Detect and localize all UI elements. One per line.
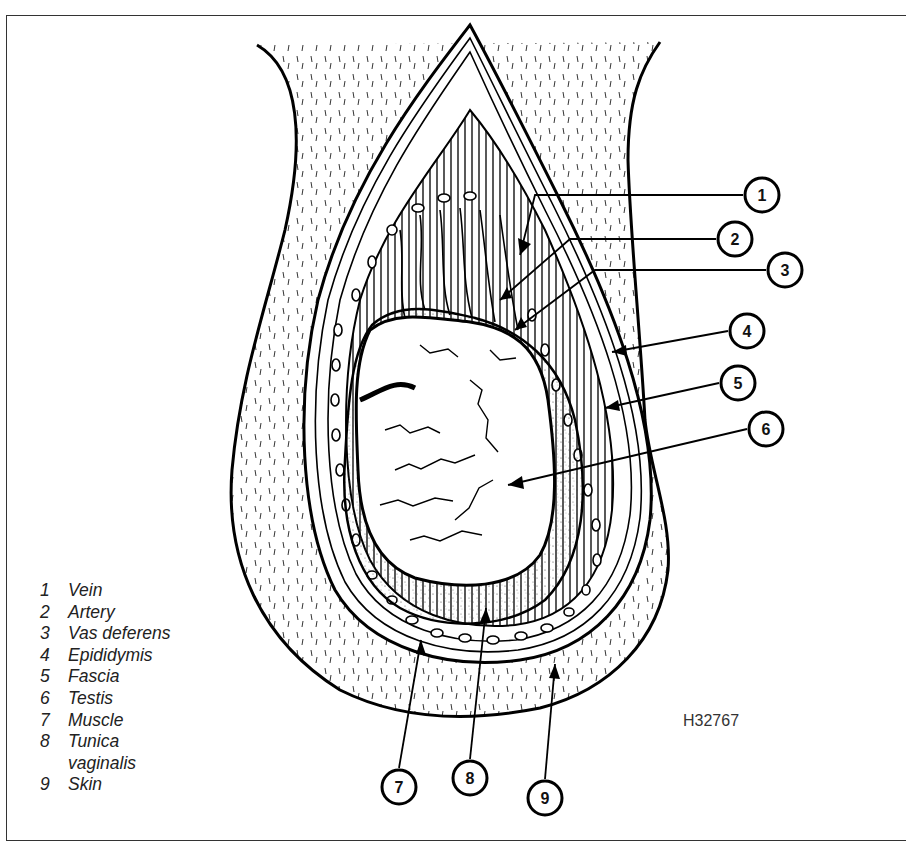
- legend-label: Artery: [68, 602, 115, 624]
- legend-label: Skin: [68, 774, 102, 796]
- legend-label: Fascia: [68, 666, 120, 688]
- svg-text:5: 5: [734, 375, 743, 392]
- legend-item: vaginalis: [40, 753, 170, 775]
- legend-item: 2Artery: [40, 602, 170, 624]
- legend-item: 5Fascia: [40, 666, 170, 688]
- figure-id: H32767: [683, 712, 739, 730]
- svg-text:9: 9: [541, 790, 550, 807]
- legend-label: Tunica: [68, 731, 119, 753]
- callout-3: 3: [768, 253, 802, 287]
- legend-number: 4: [40, 645, 68, 667]
- svg-text:7: 7: [395, 779, 404, 796]
- callout-7: 7: [382, 770, 416, 804]
- legend-number: 2: [40, 602, 68, 624]
- callout-5: 5: [721, 366, 755, 400]
- legend-number: [40, 753, 68, 775]
- legend-number: 7: [40, 710, 68, 732]
- legend-label: Vas deferens: [68, 623, 170, 645]
- legend-item: 7Muscle: [40, 710, 170, 732]
- callout-8: 8: [453, 761, 487, 795]
- legend-item: 3Vas deferens: [40, 623, 170, 645]
- legend-label: Epididymis: [68, 645, 153, 667]
- callout-2: 2: [718, 222, 752, 256]
- legend-number: 9: [40, 774, 68, 796]
- legend: 1Vein 2Artery 3Vas deferens 4Epididymis …: [40, 580, 170, 796]
- legend-item: 4Epididymis: [40, 645, 170, 667]
- legend-item: 1Vein: [40, 580, 170, 602]
- legend-label: vaginalis: [68, 753, 136, 775]
- legend-label: Vein: [68, 580, 102, 602]
- callout-6: 6: [749, 412, 783, 446]
- svg-text:3: 3: [781, 262, 790, 279]
- testis: [356, 317, 554, 585]
- legend-number: 8: [40, 731, 68, 753]
- svg-text:6: 6: [762, 421, 771, 438]
- svg-text:1: 1: [758, 187, 767, 204]
- svg-text:2: 2: [731, 231, 740, 248]
- legend-label: Testis: [68, 688, 113, 710]
- legend-number: 5: [40, 666, 68, 688]
- legend-item: 9Skin: [40, 774, 170, 796]
- callout-1: 1: [745, 178, 779, 212]
- legend-item: 8Tunica: [40, 731, 170, 753]
- legend-item: 6Testis: [40, 688, 170, 710]
- callout-9: 9: [528, 781, 562, 815]
- legend-number: 6: [40, 688, 68, 710]
- legend-label: Muscle: [68, 710, 123, 732]
- legend-number: 3: [40, 623, 68, 645]
- legend-number: 1: [40, 580, 68, 602]
- svg-text:4: 4: [743, 323, 752, 340]
- callout-4: 4: [730, 314, 764, 348]
- svg-text:8: 8: [466, 770, 475, 787]
